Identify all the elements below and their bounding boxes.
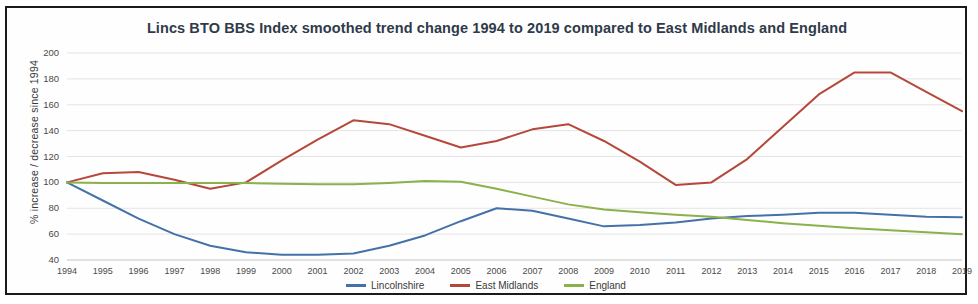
chart-legend: LincolnshireEast MidlandsEngland (7, 280, 965, 291)
series-line-england (67, 181, 962, 234)
legend-swatch-icon (346, 284, 366, 287)
chart-canvas: Lincs BTO BBS Index smoothed trend chang… (7, 8, 965, 293)
legend-label: England (589, 280, 626, 291)
legend-item-east-midlands[interactable]: East Midlands (450, 280, 538, 291)
legend-swatch-icon (450, 284, 470, 287)
legend-label: East Midlands (475, 280, 538, 291)
legend-item-england[interactable]: England (564, 280, 626, 291)
legend-swatch-icon (564, 284, 584, 287)
plot-area (7, 8, 969, 297)
legend-label: Lincolnshire (371, 280, 424, 291)
legend-item-lincolnshire[interactable]: Lincolnshire (346, 280, 424, 291)
chart-frame: Lincs BTO BBS Index smoothed trend chang… (5, 6, 967, 295)
